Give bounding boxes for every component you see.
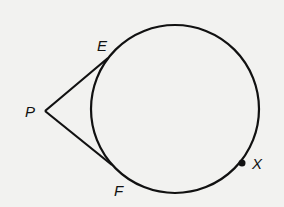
label-x: X [252, 156, 262, 171]
diagram-canvas [0, 0, 284, 207]
label-p: P [25, 104, 35, 119]
label-e: E [97, 38, 107, 53]
tangent-segment-pe [45, 58, 108, 111]
point-x-dot [239, 160, 246, 167]
tangent-segment-pf [45, 111, 112, 165]
geometry-diagram: E P F X [0, 0, 284, 207]
circle [91, 25, 259, 193]
label-f: F [114, 183, 123, 198]
